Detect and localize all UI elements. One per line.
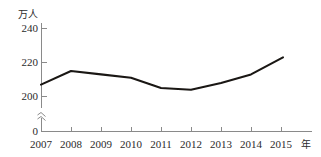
chart-canvas: 万人 240 220 200 0 2007 2008 2009 2010 201…	[0, 0, 321, 157]
y-axis-unit-label: 万人	[18, 9, 38, 20]
y-tick-label-0: 0	[33, 125, 39, 137]
y-tick-label-240: 240	[22, 22, 39, 34]
x-tick-label-2015: 2015	[270, 138, 293, 150]
x-tick-label-2011: 2011	[150, 138, 172, 150]
line-chart-figure: 万人 240 220 200 0 2007 2008 2009 2010 201…	[0, 0, 321, 157]
data-series-line	[41, 57, 283, 89]
x-tick-label-2007: 2007	[30, 138, 53, 150]
x-tick-label-2014: 2014	[240, 138, 263, 150]
y-tick-label-200: 200	[22, 90, 39, 102]
y-tick-label-220: 220	[22, 56, 39, 68]
x-tick-label-2010: 2010	[120, 138, 143, 150]
x-tick-label-2013: 2013	[210, 138, 233, 150]
x-tick-label-2009: 2009	[90, 138, 113, 150]
axis-break-icon	[38, 113, 46, 117]
x-tick-label-2012: 2012	[180, 138, 202, 150]
x-tick-label-2008: 2008	[60, 138, 83, 150]
x-axis-unit-label: 年	[301, 138, 311, 150]
